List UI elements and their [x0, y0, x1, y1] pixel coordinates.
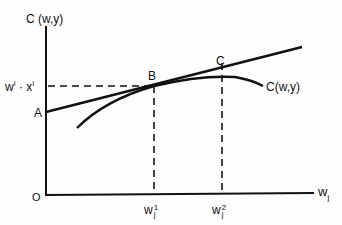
point-b-label: B: [148, 70, 156, 82]
tick-w1-label: w1j: [144, 204, 158, 218]
x-axis-base: w: [318, 184, 327, 199]
intercept-a-label: A: [34, 107, 42, 119]
x-axis: [46, 193, 314, 195]
point-c-label: C: [216, 55, 225, 67]
level-w: w: [5, 80, 14, 94]
curve-label: C(w,y): [266, 81, 300, 93]
level-label: wI · xI: [5, 80, 34, 93]
cost-function-curve: [77, 77, 263, 128]
tick-w1-sub: j: [154, 211, 158, 218]
y-axis-label: C (w,y): [26, 13, 63, 25]
linear-cost-line: [46, 47, 302, 112]
tick-w2-sub: j: [222, 211, 226, 218]
level-dot: ·: [19, 80, 23, 94]
level-w-sup: I: [14, 80, 16, 87]
tick-w2-label: w2j: [212, 204, 226, 218]
origin-label: O: [32, 192, 41, 203]
cost-function-diagram: C (w,y) wI · xI A B C C(w,y) O w1j w2j w…: [0, 0, 342, 225]
level-x-sup: I: [32, 80, 34, 87]
x-axis-label: wj: [318, 185, 329, 202]
x-axis-sub: j: [327, 193, 329, 202]
tick-w2-base: w: [212, 203, 221, 217]
diagram-canvas: [0, 0, 342, 225]
tick-w1-base: w: [144, 203, 153, 217]
